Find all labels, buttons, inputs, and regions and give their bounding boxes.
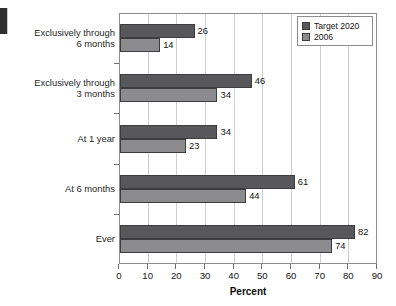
bar-value-target-2020: 46	[255, 74, 265, 88]
bar-target-2020	[120, 225, 355, 239]
y-tick-1	[114, 63, 119, 64]
bar-2006	[120, 88, 217, 102]
x-tick-40	[233, 264, 234, 269]
bar-target-2020	[120, 125, 217, 139]
legend-label-2006: 2006	[314, 32, 333, 42]
bar-target-2020	[120, 74, 252, 88]
x-tick-70	[319, 264, 320, 269]
category-label: Exclusively through 6 months	[3, 27, 115, 50]
bar-2006	[120, 189, 246, 203]
y-tick-4	[114, 214, 119, 215]
x-tick-0	[118, 264, 119, 269]
x-tick-60	[290, 264, 291, 269]
horizontal-bar-chart: Exclusively through 6 months2614Exclusiv…	[0, 0, 396, 306]
bar-target-2020	[120, 24, 195, 38]
bar-value-target-2020: 61	[298, 175, 308, 189]
bar-value-2006: 23	[189, 139, 199, 153]
legend-item-target-2020: Target 2020	[302, 20, 368, 31]
x-axis-title: Percent	[119, 286, 377, 297]
bar-2006	[120, 139, 186, 153]
x-tick-label-40: 40	[219, 270, 249, 282]
bar-2006	[120, 239, 332, 253]
x-tick-90	[376, 264, 377, 269]
x-tick-label-70: 70	[305, 270, 335, 282]
bar-target-2020	[120, 175, 295, 189]
legend-swatch-2006-icon	[302, 33, 310, 41]
category-label: At 1 year	[3, 133, 115, 145]
y-tick-2	[114, 113, 119, 114]
y-tick-3	[114, 164, 119, 165]
bar-value-target-2020: 26	[198, 24, 208, 38]
x-tick-label-60: 60	[276, 270, 306, 282]
category-label: Exclusively through 3 months	[3, 77, 115, 100]
x-tick-label-50: 50	[247, 270, 277, 282]
bar-value-2006: 34	[220, 88, 230, 102]
x-tick-label-30: 30	[190, 270, 220, 282]
x-tick-10	[147, 264, 148, 269]
bar-value-2006: 44	[249, 189, 259, 203]
x-tick-label-90: 90	[362, 270, 392, 282]
x-tick-30	[204, 264, 205, 269]
x-tick-50	[261, 264, 262, 269]
x-axis-tick-labels: 0102030405060708090	[0, 270, 396, 284]
x-tick-label-0: 0	[104, 270, 134, 282]
x-tick-label-20: 20	[161, 270, 191, 282]
x-tick-20	[175, 264, 176, 269]
chart-legend: Target 2020 2006	[297, 16, 373, 46]
x-tick-label-80: 80	[333, 270, 363, 282]
x-tick-label-10: 10	[133, 270, 163, 282]
bar-value-target-2020: 34	[220, 125, 230, 139]
x-tick-80	[347, 264, 348, 269]
bar-value-target-2020: 82	[358, 225, 368, 239]
category-label: Ever	[3, 233, 115, 245]
category-label: At 6 months	[3, 183, 115, 195]
bar-2006	[120, 38, 160, 52]
bar-value-2006: 74	[335, 239, 345, 253]
bar-value-2006: 14	[163, 38, 173, 52]
legend-item-2006: 2006	[302, 31, 368, 42]
legend-swatch-target-2020-icon	[302, 22, 310, 30]
legend-label-target-2020: Target 2020	[314, 21, 359, 31]
